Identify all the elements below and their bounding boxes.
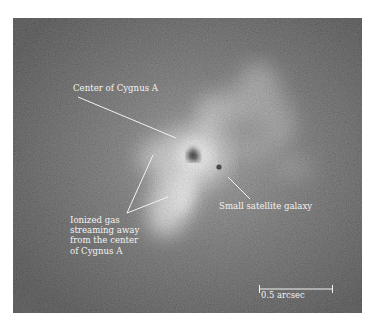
- nebula-image-render: [13, 18, 362, 313]
- cygnus-a-image: Center of Cygnus A Small satellite galax…: [13, 18, 362, 313]
- ionized-gas-line-4: of Cygnus A: [70, 246, 139, 256]
- film-grain: [13, 18, 362, 313]
- ionized-gas-line-3: from the center: [70, 235, 139, 245]
- ionized-gas-line-2: streaming away: [70, 225, 139, 235]
- satellite-galaxy-label: Small satellite galaxy: [219, 201, 312, 211]
- center-of-cygnus-a-label: Center of Cygnus A: [73, 83, 158, 93]
- ionized-gas-line-1: Ionized gas: [70, 215, 139, 225]
- scale-bar-label: 0.5 arcsec: [261, 290, 305, 300]
- ionized-gas-label: Ionized gas streaming away from the cent…: [70, 215, 139, 256]
